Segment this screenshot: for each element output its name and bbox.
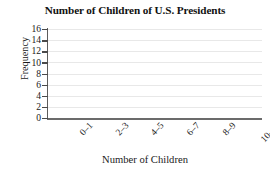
- x-tick-label: 8–9: [221, 121, 237, 138]
- x-tick-label: 2–3: [114, 121, 130, 138]
- x-tick-label: 0–1: [78, 121, 94, 138]
- x-axis-tick-labels: 0–12–34–56–78–910–11: [0, 0, 270, 174]
- y-tick-mark: [42, 74, 48, 75]
- y-tick-mark: [42, 40, 48, 41]
- y-tick-mark: [42, 85, 48, 86]
- x-axis-title: Number of Children: [35, 154, 255, 165]
- y-tick-mark: [42, 96, 48, 97]
- x-tick-label: 4–5: [150, 121, 166, 138]
- y-tick-mark: [42, 107, 48, 108]
- x-tick-label: 10–11: [260, 121, 270, 144]
- y-tick-mark: [42, 29, 48, 30]
- x-tick-label: 6–7: [185, 121, 201, 138]
- y-tick-mark: [42, 62, 48, 63]
- y-tick-mark: [42, 51, 48, 52]
- chart-figure: Number of Children of U.S. Presidents 16…: [0, 0, 270, 174]
- y-tick-mark: [42, 118, 48, 119]
